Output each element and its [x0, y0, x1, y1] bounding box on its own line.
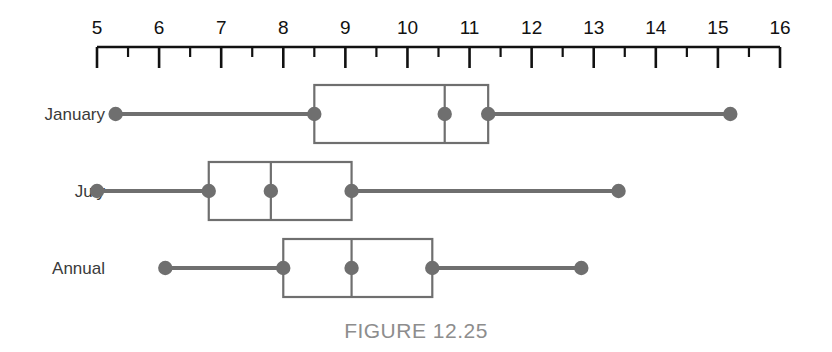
boxplot-rows: JanuaryJulyAnnual: [45, 85, 738, 297]
axis-tick-label: 5: [92, 17, 103, 38]
axis-tick-label: 8: [278, 17, 289, 38]
marker-min: [90, 184, 104, 198]
axis-tick-label: 9: [340, 17, 351, 38]
boxplot-figure: 5678910111213141516 JanuaryJulyAnnual FI…: [0, 0, 832, 352]
marker-max: [723, 107, 737, 121]
marker-max: [611, 184, 625, 198]
axis-tick-label: 7: [216, 17, 227, 38]
marker-q1: [276, 261, 290, 275]
marker-q3: [481, 107, 495, 121]
marker-q1: [202, 184, 216, 198]
marker-min: [158, 261, 172, 275]
boxplot-row-label: Annual: [52, 259, 105, 278]
marker-median: [344, 261, 358, 275]
axis-tick-label: 16: [769, 17, 790, 38]
boxplot-row-label: January: [45, 105, 106, 124]
axis-tick-label: 11: [460, 17, 480, 38]
boxplot-row: January: [45, 85, 738, 143]
marker-median: [438, 107, 452, 121]
marker-min: [108, 107, 122, 121]
box-iqr: [314, 85, 488, 143]
marker-q3: [344, 184, 358, 198]
axis-tick-label: 13: [583, 17, 604, 38]
axis-tick-label: 10: [397, 17, 418, 38]
marker-q3: [425, 261, 439, 275]
axis-tick-label: 12: [521, 17, 542, 38]
axis-tick-labels: 5678910111213141516: [92, 17, 791, 38]
boxplot-row: Annual: [52, 239, 588, 297]
axis-tick-label: 6: [154, 17, 165, 38]
axis-ticks: [97, 47, 780, 68]
marker-median: [264, 184, 278, 198]
axis-tick-label: 15: [707, 17, 728, 38]
marker-max: [574, 261, 588, 275]
box-iqr: [209, 162, 352, 220]
marker-q1: [307, 107, 321, 121]
figure-caption: FIGURE 12.25: [344, 319, 488, 342]
boxplot-row: July: [75, 162, 626, 220]
axis-group: 5678910111213141516: [92, 17, 791, 68]
axis-tick-label: 14: [645, 17, 667, 38]
